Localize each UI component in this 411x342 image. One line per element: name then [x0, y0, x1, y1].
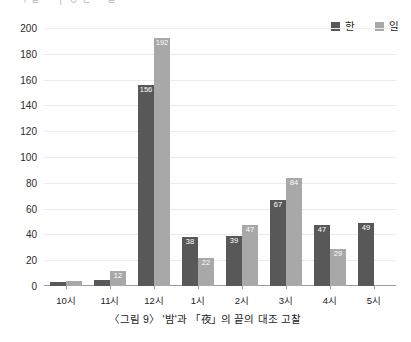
y-axis-tick-label: 180	[20, 48, 37, 59]
bar-group: 15619212시	[132, 28, 176, 286]
bar-han[interactable]: 47	[314, 225, 330, 286]
x-axis-tick-label: 1시	[191, 293, 205, 307]
y-axis-tick-label: 40	[26, 229, 37, 240]
cropped-header-strip: ㄱ ㄹ ㅡ ㅣ ㅇ ㄴ ㅡ ㄹ	[0, 0, 411, 11]
bar-group: 495시	[352, 28, 396, 286]
y-axis-tick-label: 120	[20, 126, 37, 137]
plot-area: 02040608010012014016018020010시1211시15619…	[44, 28, 396, 286]
bar-il[interactable]: 22	[198, 258, 214, 286]
cropped-header-text: ㄱ ㄹ ㅡ ㅣ ㅇ ㄴ ㅡ ㄹ	[18, 0, 117, 7]
y-axis-tick-label: 20	[26, 255, 37, 266]
bar-han[interactable]	[94, 280, 110, 286]
bar-group: 67843시	[264, 28, 308, 286]
x-axis-tick-label: 11시	[101, 293, 120, 307]
bar-value-label: 12	[114, 272, 122, 280]
bar-il[interactable]: 84	[286, 178, 302, 286]
x-axis-tick-mark	[66, 286, 67, 289]
y-axis-tick-label: 0	[31, 281, 37, 292]
bar-group: 10시	[44, 28, 88, 286]
bar-han[interactable]: 49	[358, 223, 374, 286]
x-axis-tick-label: 12시	[144, 293, 164, 307]
bar-il[interactable]	[66, 281, 82, 286]
bar-pair: 4729	[308, 28, 352, 286]
bar-group: 47294시	[308, 28, 352, 286]
bar-pair	[44, 28, 88, 286]
x-axis-tick-label: 10시	[56, 293, 76, 307]
bar-han[interactable]: 38	[182, 237, 198, 286]
figure-container: 한 일 02040608010012014016018020010시1211시1…	[0, 11, 411, 342]
bar-group: 1211시	[88, 28, 132, 286]
x-axis-tick-mark	[330, 286, 331, 289]
bar-pair: 12	[88, 28, 132, 286]
x-axis-tick-mark	[286, 286, 287, 289]
bar-il[interactable]: 192	[154, 38, 170, 286]
x-axis-tick-mark	[154, 286, 155, 289]
bar-value-label: 39	[230, 237, 238, 245]
x-axis-tick-label: 3시	[279, 293, 293, 307]
bar-han[interactable]	[50, 282, 66, 286]
bar-value-label: 67	[274, 201, 282, 209]
bar-group: 39472시	[220, 28, 264, 286]
bar-value-label: 47	[318, 226, 326, 234]
y-axis-tick-label: 60	[26, 203, 37, 214]
x-axis-tick-mark	[110, 286, 111, 289]
bar-value-label: 38	[186, 238, 194, 246]
bar-value-label: 192	[156, 39, 169, 47]
bar-pair: 3947	[220, 28, 264, 286]
bar-value-label: 29	[334, 250, 342, 258]
bar-value-label: 22	[202, 259, 210, 267]
bar-pair: 156192	[132, 28, 176, 286]
bar-il[interactable]: 12	[110, 271, 126, 286]
x-axis-tick-label: 4시	[323, 293, 337, 307]
x-axis-tick-label: 2시	[235, 293, 249, 307]
y-axis-tick-label: 200	[20, 23, 37, 34]
figure-caption: 〈그림 9〉 '밤'과 「夜」의 끝의 대조 고찰	[0, 311, 411, 326]
bar-value-label: 84	[290, 179, 298, 187]
y-axis-tick-label: 100	[20, 152, 37, 163]
bar-value-label: 49	[362, 224, 370, 232]
bar-pair: 49	[352, 28, 396, 286]
y-axis-tick-label: 140	[20, 100, 37, 111]
bar-han[interactable]: 67	[270, 200, 286, 286]
x-axis-tick-mark	[242, 286, 243, 289]
x-axis-tick-mark	[198, 286, 199, 289]
bar-han[interactable]: 156	[138, 85, 154, 286]
x-axis-tick-mark	[374, 286, 375, 289]
y-axis-tick-label: 160	[20, 74, 37, 85]
x-axis-tick-label: 5시	[367, 293, 381, 307]
bar-pair: 3822	[176, 28, 220, 286]
bar-value-label: 156	[140, 86, 153, 94]
bar-han[interactable]: 39	[226, 236, 242, 286]
bar-il[interactable]: 29	[330, 249, 346, 286]
bar-il[interactable]: 47	[242, 225, 258, 286]
bar-group: 38221시	[176, 28, 220, 286]
y-axis-tick-label: 80	[26, 177, 37, 188]
bar-value-label: 47	[246, 226, 254, 234]
gridline	[44, 286, 396, 287]
bar-pair: 6784	[264, 28, 308, 286]
